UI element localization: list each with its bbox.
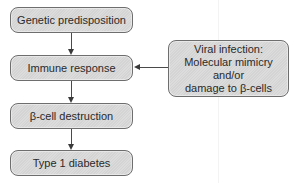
viral-label-line: Viral infection: — [184, 43, 273, 56]
arrow-destruction-to-t1d — [71, 129, 72, 144]
node-label: Immune response — [27, 62, 115, 75]
node-beta-cell-destruction: β-cell destruction — [10, 103, 133, 129]
node-label: Type 1 diabetes — [33, 157, 111, 170]
arrow-immune-to-destruction — [71, 81, 72, 97]
node-immune-response: Immune response — [10, 55, 133, 81]
arrow-genetic-to-immune — [71, 33, 72, 49]
viral-label-line: damage to β-cells — [184, 82, 273, 95]
node-viral-infection: Viral infection: Molecular mimicry and/o… — [168, 40, 289, 97]
arrowhead-left-icon — [134, 64, 140, 70]
viral-label: Viral infection: Molecular mimicry and/o… — [184, 43, 273, 95]
node-label: β-cell destruction — [30, 110, 113, 123]
node-label: Genetic predisposition — [17, 14, 126, 27]
viral-label-line: Molecular mimicry — [184, 56, 273, 69]
arrow-viral-to-immune — [140, 67, 168, 68]
node-genetic-predisposition: Genetic predisposition — [10, 7, 133, 33]
viral-label-line: and/or — [184, 69, 273, 82]
node-type-1-diabetes: Type 1 diabetes — [10, 150, 133, 176]
